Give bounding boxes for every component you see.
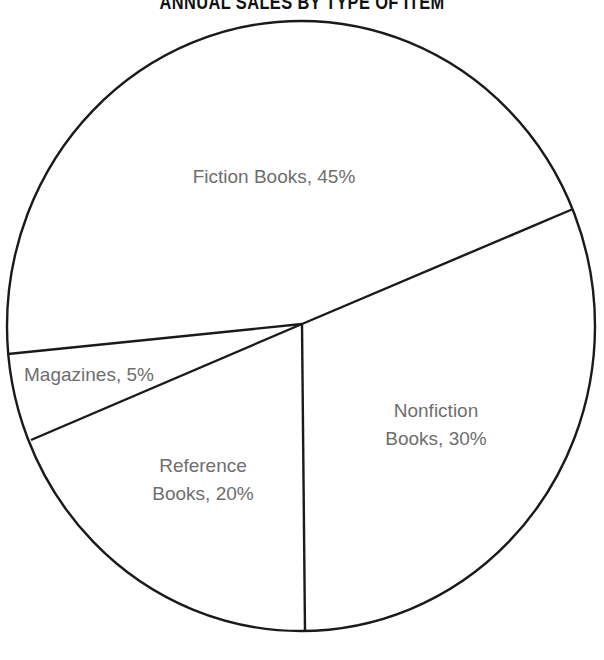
- svg-text:Nonfiction: Nonfiction: [394, 400, 479, 421]
- slice-label-fiction: Fiction Books, 45%: [193, 166, 356, 187]
- pie-chart: Fiction Books, 45% Nonfiction Books, 30%…: [0, 0, 604, 660]
- svg-text:Fiction Books, 45%: Fiction Books, 45%: [193, 166, 356, 187]
- svg-text:Reference: Reference: [159, 455, 247, 476]
- svg-text:Books, 20%: Books, 20%: [152, 483, 253, 504]
- slice-label-magazines: Magazines, 5%: [24, 364, 154, 385]
- svg-text:Magazines, 5%: Magazines, 5%: [24, 364, 154, 385]
- svg-text:Books, 30%: Books, 30%: [385, 428, 486, 449]
